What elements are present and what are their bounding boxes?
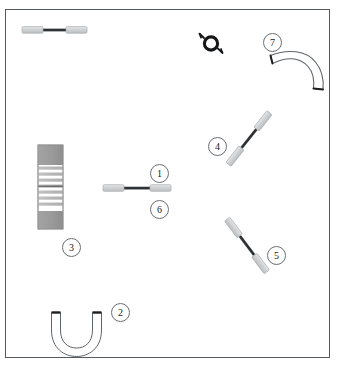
callout-4[interactable]: 4 xyxy=(208,137,227,156)
callout-1[interactable]: 1 xyxy=(150,164,169,183)
callout-7[interactable]: 7 xyxy=(263,33,282,52)
parts-diagram: 1 2 3 4 5 6 7 xyxy=(0,0,337,369)
connector-rod-upper-right xyxy=(226,111,272,167)
callout-5[interactable]: 5 xyxy=(267,246,286,265)
diagram-canvas xyxy=(0,0,337,369)
connector-rod-center xyxy=(103,185,171,192)
callout-2[interactable]: 2 xyxy=(111,303,130,322)
connector-rod-top-left xyxy=(22,27,87,34)
striped-block xyxy=(38,145,63,229)
curved-elbow-hose xyxy=(271,51,324,89)
callout-3[interactable]: 3 xyxy=(62,238,81,257)
u-shaped-hose xyxy=(52,313,102,357)
ring-clamp xyxy=(200,34,223,53)
connector-rod-lower-right xyxy=(225,217,270,274)
callout-6[interactable]: 6 xyxy=(150,200,169,219)
